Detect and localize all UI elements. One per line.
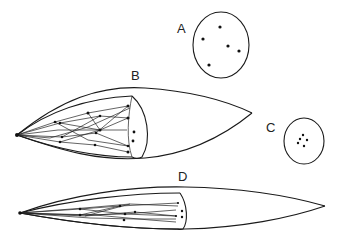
label-b: B — [131, 68, 140, 83]
lens-b-bottom — [17, 113, 252, 159]
lens-b-top — [17, 88, 252, 135]
cut-face-b — [132, 96, 147, 158]
circle-c — [284, 118, 324, 164]
diagram-canvas: A B — [0, 0, 338, 246]
panel-c: C — [266, 118, 324, 164]
panel-d: D — [18, 169, 325, 229]
label-c: C — [266, 120, 275, 135]
panel-b: B — [15, 68, 252, 159]
circle-a — [193, 12, 249, 78]
panel-a: A — [177, 12, 249, 78]
label-d: D — [178, 169, 187, 184]
label-a: A — [177, 21, 186, 36]
